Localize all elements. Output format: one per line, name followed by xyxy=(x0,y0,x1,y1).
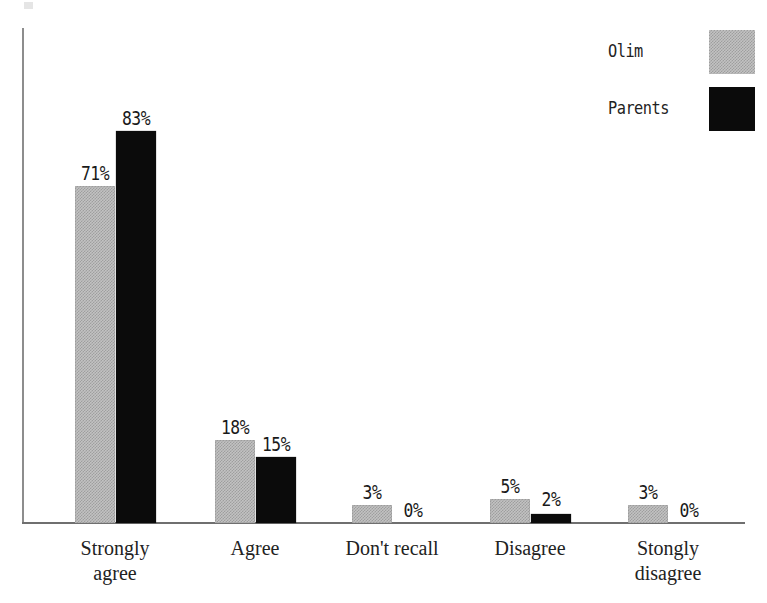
bar-parents-strongly-agree[interactable]: 83% xyxy=(116,131,156,523)
bar-rect xyxy=(215,440,255,523)
chart-legend: Olim Parents xyxy=(608,22,760,136)
bar-value-label: 18% xyxy=(216,416,254,438)
x-axis-label-agree: Agree xyxy=(175,536,335,561)
x-axis-label-line: agree xyxy=(35,561,195,586)
bar-parents-agree[interactable]: 15% xyxy=(256,457,296,523)
x-axis-label-dont-recall: Don't recall xyxy=(312,536,472,561)
bar-parents-disagree[interactable]: 2% xyxy=(531,514,571,523)
bar-group-dont-recall: 3% 0% xyxy=(352,0,433,523)
legend-item-olim[interactable]: Olim xyxy=(608,22,760,79)
bar-olim-agree[interactable]: 18% xyxy=(215,440,255,523)
legend-swatch-olim-icon xyxy=(709,30,755,74)
legend-item-label: Olim xyxy=(608,40,643,61)
bar-value-label: 0% xyxy=(670,499,708,521)
bar-rect xyxy=(116,131,156,523)
legend-item-label: Parents xyxy=(608,97,669,118)
bar-chart: 71% 83% 18% 15% 3% xyxy=(0,0,767,603)
bar-value-label: 3% xyxy=(353,481,391,503)
bar-value-label: 15% xyxy=(257,433,295,455)
x-axis-label-line: Agree xyxy=(175,536,335,561)
bar-olim-dont-recall[interactable]: 3% xyxy=(352,505,392,523)
bar-value-label: 3% xyxy=(629,481,667,503)
bar-rect xyxy=(628,505,668,523)
bar-group-strongly-agree: 71% 83% xyxy=(75,0,156,523)
x-axis-label-stongly-disagree: Stongly disagree xyxy=(588,536,748,586)
bar-rect xyxy=(352,505,392,523)
x-axis-label-disagree: Disagree xyxy=(450,536,610,561)
x-axis-label-line: Don't recall xyxy=(312,536,472,561)
bar-value-label: 71% xyxy=(76,162,114,184)
bar-rect xyxy=(490,499,530,523)
bar-olim-strongly-agree[interactable]: 71% xyxy=(75,186,115,523)
bar-olim-disagree[interactable]: 5% xyxy=(490,499,530,523)
bar-rect xyxy=(256,457,296,523)
bar-group-agree: 18% 15% xyxy=(215,0,296,523)
bar-value-label: 0% xyxy=(394,499,432,521)
bar-value-label: 2% xyxy=(532,488,570,510)
x-axis-label-line: Strongly xyxy=(35,536,195,561)
bar-olim-stongly-disagree[interactable]: 3% xyxy=(628,505,668,523)
legend-item-parents[interactable]: Parents xyxy=(608,79,760,136)
x-axis-label-strongly-agree: Strongly agree xyxy=(35,536,195,586)
x-axis-label-line: Stongly xyxy=(588,536,748,561)
bar-value-label: 5% xyxy=(491,475,529,497)
bar-rect xyxy=(75,186,115,523)
x-axis-label-line: disagree xyxy=(588,561,748,586)
bar-rect xyxy=(531,514,571,523)
x-axis-label-line: Disagree xyxy=(450,536,610,561)
bar-value-label: 83% xyxy=(117,107,155,129)
legend-swatch-parents-icon xyxy=(709,87,755,131)
bar-group-disagree: 5% 2% xyxy=(490,0,571,523)
